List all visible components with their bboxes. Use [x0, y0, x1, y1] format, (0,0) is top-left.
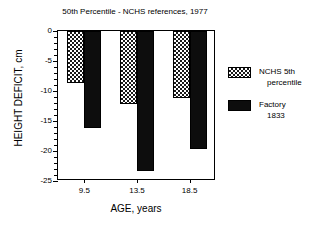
legend-item-nchs: NCHS 5th percentile [228, 66, 316, 88]
y-axis-minor-tick [54, 67, 58, 68]
y-axis-tick-label: -10 [40, 87, 52, 95]
legend-label-nchs: NCHS 5th percentile [259, 66, 316, 88]
legend-label-factory: Factory 1833 [259, 99, 316, 121]
y-axis-major-tick [53, 181, 58, 182]
y-axis-minor-tick [54, 73, 58, 74]
y-axis-major-tick [53, 61, 58, 62]
y-axis-tick-label: 0 [48, 27, 52, 35]
y-axis-minor-tick [54, 157, 58, 158]
y-axis-minor-tick [54, 103, 58, 104]
bar-factory-18.5 [190, 31, 207, 149]
legend-label-factory-line1: Factory [259, 100, 286, 109]
y-axis-title: HEIGHT DEFICIT, cm [13, 28, 25, 168]
y-axis-tick-label: -15 [40, 117, 52, 125]
bar-factory-9.5 [84, 31, 101, 128]
legend: NCHS 5th percentile Factory 1833 [228, 66, 316, 132]
y-axis-minor-tick [54, 175, 58, 176]
legend-label-factory-line2: 1833 [259, 110, 316, 121]
x-axis-tick-label: 18.5 [182, 186, 198, 195]
y-axis-tick-label: -20 [40, 147, 52, 155]
x-axis-tick-label: 9.5 [79, 186, 90, 195]
y-axis-tick-label: -25 [40, 177, 52, 185]
y-axis-minor-tick [54, 145, 58, 146]
legend-label-nchs-line2: percentile [259, 77, 316, 88]
y-axis-major-tick [53, 31, 58, 32]
y-axis-major-tick [53, 151, 58, 152]
legend-label-nchs-line1: NCHS 5th [259, 67, 295, 76]
y-axis-minor-tick [54, 169, 58, 170]
y-axis-minor-tick [54, 85, 58, 86]
bar-nchs-13.5 [120, 31, 137, 104]
y-axis-minor-tick [54, 79, 58, 80]
x-axis-tick [84, 179, 85, 183]
legend-swatch-solid-icon [228, 100, 251, 111]
bar-nchs-9.5 [67, 31, 84, 83]
y-axis-minor-tick [54, 109, 58, 110]
chart-figure: 50th Percentile - NCHS references, 1977 … [0, 0, 318, 227]
y-axis-tick-label: -5 [45, 57, 52, 65]
bar-nchs-18.5 [173, 31, 190, 98]
y-axis-minor-tick [54, 163, 58, 164]
legend-swatch-checkerboard-icon [228, 67, 251, 78]
y-axis-minor-tick [54, 97, 58, 98]
plot-area: 0-5-10-15-20-25 9.513.518.5 [57, 30, 215, 180]
y-axis-minor-tick [54, 49, 58, 50]
x-axis-tick-label: 13.5 [129, 186, 145, 195]
legend-item-factory: Factory 1833 [228, 99, 316, 121]
y-axis-major-tick [53, 121, 58, 122]
y-axis-minor-tick [54, 133, 58, 134]
y-axis-minor-tick [54, 43, 58, 44]
chart-title: 50th Percentile - NCHS references, 1977 [50, 7, 220, 17]
x-axis-tick [190, 179, 191, 183]
y-axis-minor-tick [54, 139, 58, 140]
y-axis-minor-tick [54, 115, 58, 116]
y-axis-minor-tick [54, 55, 58, 56]
y-axis-minor-tick [54, 127, 58, 128]
x-axis-title: AGE, years [57, 203, 215, 215]
y-axis-major-tick [53, 91, 58, 92]
x-axis-tick [137, 179, 138, 183]
y-axis-minor-tick [54, 37, 58, 38]
bar-factory-13.5 [137, 31, 154, 171]
